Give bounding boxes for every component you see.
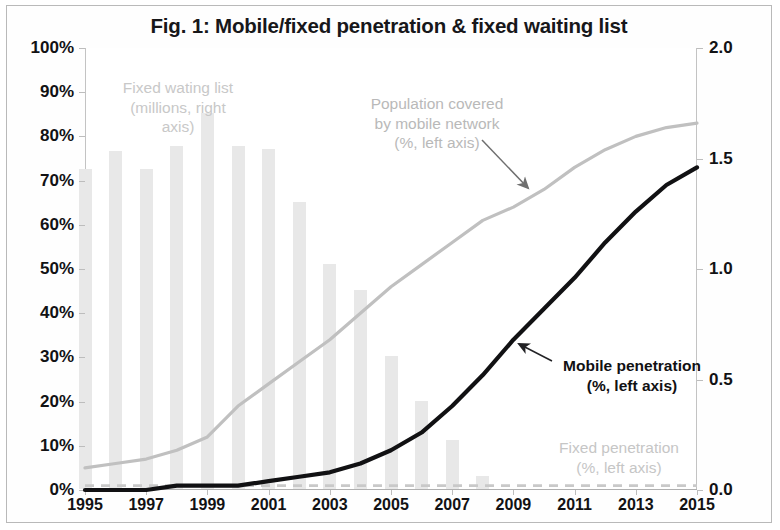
x-axis-tick xyxy=(207,490,208,495)
population-covered-line xyxy=(85,123,697,468)
x-axis-tick xyxy=(513,490,514,495)
x-axis-tick-label: 2003 xyxy=(312,496,348,514)
x-axis-tick xyxy=(697,490,698,495)
left-axis-tick-label: 80% xyxy=(40,126,74,146)
left-axis-tick-label: 70% xyxy=(40,171,74,191)
right-axis-tick-label: 1.5 xyxy=(709,149,733,169)
left-axis-tick-label: 10% xyxy=(40,436,74,456)
x-axis-tick xyxy=(269,490,270,495)
left-axis-tick-label: 100% xyxy=(31,38,74,58)
left-axis-tick-label: 90% xyxy=(40,82,74,102)
x-axis-tick-label: 2009 xyxy=(496,496,532,514)
x-axis-tick-label: 1995 xyxy=(67,496,103,514)
annotation-mobile-penetration: Mobile penetration (%, left axis) xyxy=(532,356,732,395)
x-axis-tick-label: 2011 xyxy=(557,496,592,514)
x-axis-tick-label: 2015 xyxy=(679,496,715,514)
left-axis-tick-label: 20% xyxy=(40,392,74,412)
right-axis-tick xyxy=(697,269,703,270)
x-axis-tick-label: 2001 xyxy=(251,496,287,514)
right-axis-tick xyxy=(697,48,703,49)
left-axis-tick-label: 30% xyxy=(40,347,74,367)
x-axis-tick-label: 2005 xyxy=(373,496,409,514)
annotation-fixed-waiting-list: Fixed wating list (millions, right axis) xyxy=(93,78,263,137)
left-axis-tick-label: 60% xyxy=(40,215,74,235)
figure-frame: Fig. 1: Mobile/fixed penetration & fixed… xyxy=(6,5,772,523)
page-title: Fig. 1: Mobile/fixed penetration & fixed… xyxy=(7,14,771,38)
annotation-fixed-penetration: Fixed penetration (%, left axis) xyxy=(519,438,719,477)
x-axis-tick xyxy=(575,490,576,495)
annotation-population-covered: Population covered by mobile network (%,… xyxy=(337,94,537,153)
right-axis-tick-label: 2.0 xyxy=(709,38,733,58)
x-axis-tick-label: 2007 xyxy=(434,496,470,514)
left-axis-tick-label: 40% xyxy=(40,303,74,323)
x-axis-tick xyxy=(391,490,392,495)
x-axis-tick-label: 1997 xyxy=(128,496,164,514)
x-axis-tick xyxy=(330,490,331,495)
right-axis-tick xyxy=(697,159,703,160)
right-axis-tick-label: 1.0 xyxy=(709,259,733,279)
left-axis-tick-label: 50% xyxy=(40,259,74,279)
x-axis-tick xyxy=(636,490,637,495)
x-axis-tick-label: 2013 xyxy=(618,496,654,514)
x-axis-tick xyxy=(452,490,453,495)
x-axis-tick-label: 1999 xyxy=(190,496,226,514)
